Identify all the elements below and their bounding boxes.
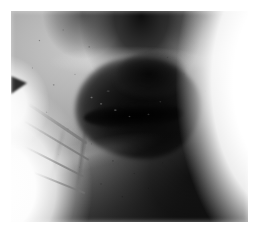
clinical-photograph <box>11 11 248 222</box>
hair-strand <box>34 172 85 194</box>
page-root <box>0 0 260 235</box>
hair-tuft-wedge <box>11 76 27 94</box>
